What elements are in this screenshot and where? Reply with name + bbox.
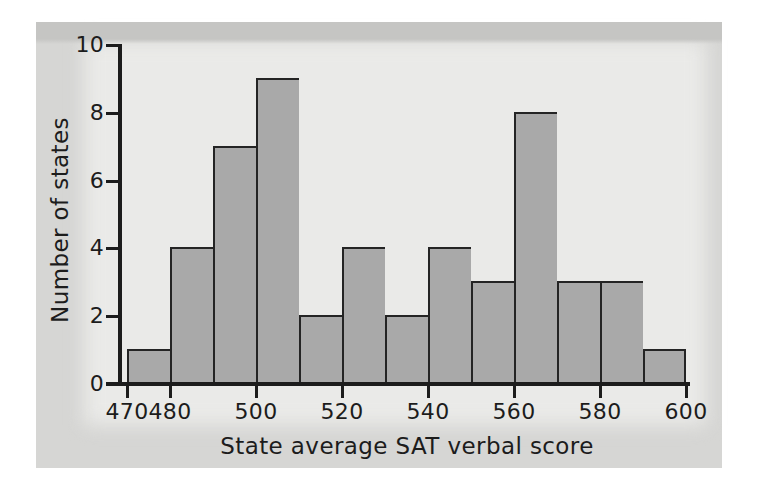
y-tick (106, 44, 119, 47)
x-tick (513, 386, 516, 398)
histogram-bar (342, 247, 385, 383)
histogram-bar (299, 315, 342, 383)
histogram-bar (600, 281, 643, 383)
x-tick (126, 386, 129, 398)
x-tick (685, 386, 688, 398)
y-tick (106, 112, 119, 115)
x-tick (255, 386, 258, 398)
x-tick-label: 560 (480, 399, 548, 425)
x-tick-label: 480 (136, 399, 204, 425)
histogram-bar (170, 247, 213, 383)
histogram-bar (471, 281, 514, 383)
y-tick (106, 383, 119, 386)
y-tick (106, 315, 119, 318)
x-tick-label: 600 (652, 399, 720, 425)
y-tick-label: 10 (58, 31, 104, 59)
histogram-bar (428, 247, 471, 383)
histogram-bar (213, 146, 256, 383)
histogram-bar (557, 281, 600, 383)
y-tick (106, 180, 119, 183)
y-axis-title: Number of states (45, 90, 75, 350)
histogram-bar (256, 78, 299, 383)
figure-canvas: 0246810470480500520540560580600 State av… (0, 0, 761, 488)
x-tick-label: 540 (394, 399, 462, 425)
x-axis-line (106, 382, 690, 386)
histogram-bar (127, 349, 170, 383)
y-tick (106, 247, 119, 250)
histogram-bar (643, 349, 686, 383)
x-tick (169, 386, 172, 398)
x-axis-title: State average SAT verbal score (127, 432, 687, 460)
x-tick (341, 386, 344, 398)
panel-top-shading (36, 22, 722, 44)
y-axis-line (118, 44, 122, 386)
x-tick-label: 500 (222, 399, 290, 425)
x-tick (427, 386, 430, 398)
x-tick-label: 580 (566, 399, 634, 425)
x-tick (599, 386, 602, 398)
histogram-bar (385, 315, 428, 383)
y-tick-label: 0 (58, 370, 104, 398)
histogram-bar (514, 112, 557, 383)
x-tick-label: 520 (308, 399, 376, 425)
